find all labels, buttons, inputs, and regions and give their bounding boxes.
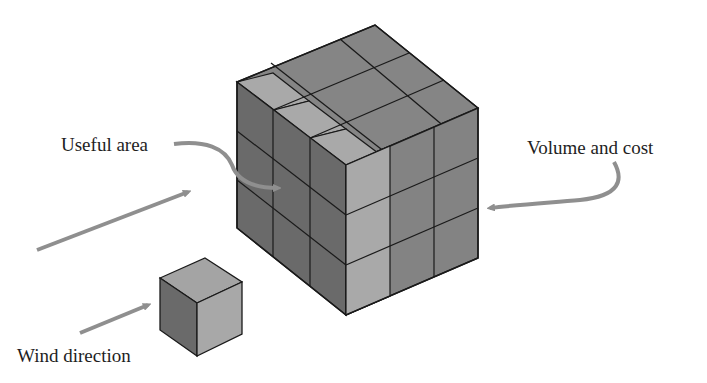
wind-arrow-small <box>80 305 148 333</box>
volume-and-cost-label: Volume and cost <box>527 138 653 157</box>
small-cube <box>160 258 242 356</box>
useful-area-label: Useful area <box>61 135 148 154</box>
wind-arrow-large <box>37 192 188 250</box>
volume-cost-arrow <box>490 162 619 208</box>
large-cube <box>237 25 478 315</box>
cube-diagram <box>0 0 707 383</box>
wind-direction-label: Wind direction <box>17 346 131 365</box>
